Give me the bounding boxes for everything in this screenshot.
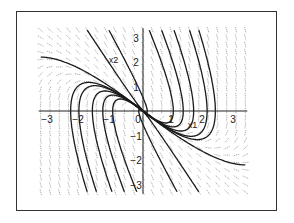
x-tick-label: −3 — [41, 114, 53, 125]
y-tick-label: −1 — [130, 131, 142, 142]
trajectory-curve — [143, 30, 183, 127]
x-tick-label: −2 — [72, 114, 84, 125]
y-tick-label: −3 — [130, 180, 142, 191]
y-tick-label: 2 — [133, 57, 139, 68]
y-tick-label: 1 — [133, 82, 139, 93]
y-tick-label: −2 — [130, 155, 142, 166]
x-tick-label: 2 — [199, 114, 205, 125]
x-tick-label: 3 — [230, 114, 236, 125]
trajectory-curve — [103, 95, 143, 192]
phase-portrait-plot: −3−2−10123−3−2−1123 x2x1 — [0, 0, 294, 223]
x-tick-label: 0 — [135, 114, 141, 125]
x2-label: x2 — [109, 55, 119, 65]
x1-label: x1 — [188, 120, 198, 130]
x-tick-label: 1 — [168, 114, 174, 125]
y-tick-label: 3 — [133, 33, 139, 44]
x-tick-label: −1 — [103, 114, 115, 125]
